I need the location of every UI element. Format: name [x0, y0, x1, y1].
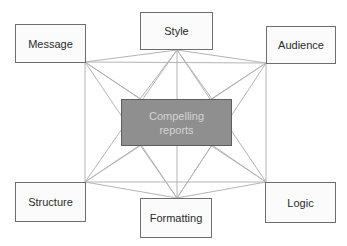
compelling-reports-diagram: Message Style Audience Structure Formatt…: [0, 0, 347, 246]
node-logic: Logic: [265, 182, 336, 223]
node-label: Structure: [28, 196, 73, 208]
node-label: Style: [164, 25, 188, 37]
node-formatting: Formatting: [140, 198, 212, 238]
center-label-line2: reports: [149, 123, 204, 137]
center-label-line1: Compelling: [149, 109, 204, 123]
node-label: Logic: [287, 197, 313, 209]
node-label: Audience: [278, 39, 324, 51]
node-audience: Audience: [266, 26, 336, 64]
node-label: Message: [28, 38, 73, 50]
center-node-compelling-reports: Compelling reports: [121, 99, 232, 146]
node-style: Style: [140, 12, 213, 50]
node-structure: Structure: [15, 182, 86, 222]
node-label: Formatting: [150, 212, 203, 224]
node-message: Message: [15, 24, 86, 63]
